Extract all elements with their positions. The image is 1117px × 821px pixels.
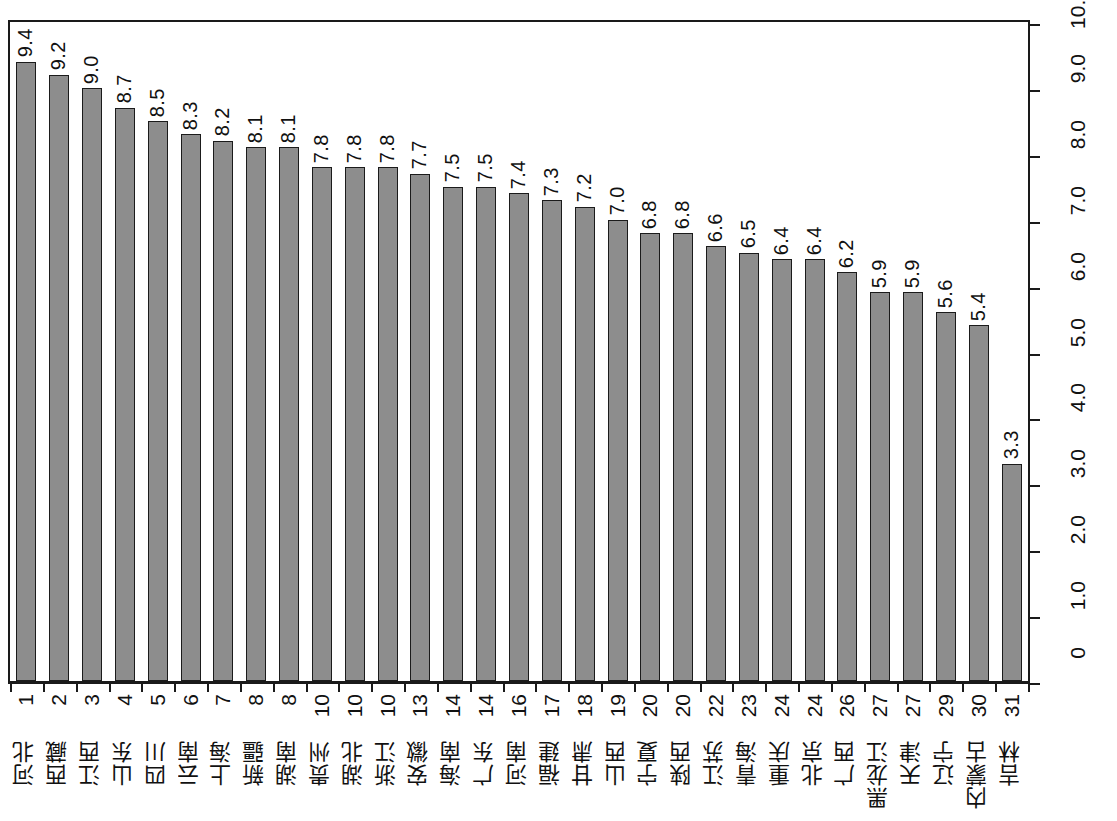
bar-value-label: 8.5 <box>147 88 167 117</box>
value-axis-tick-labels: 01.02.03.04.05.06.07.08.09.010.0 <box>1042 0 1117 821</box>
value-tick-label: 5.0 <box>1042 318 1114 347</box>
category-label-group: 8新疆 <box>244 694 268 821</box>
category-name-label: 黑龙江 <box>868 740 892 809</box>
category-tick <box>207 683 209 692</box>
category-rank-label: 10 <box>343 694 367 717</box>
category-rank-label: 22 <box>704 694 728 717</box>
value-tick <box>1030 683 1040 685</box>
category-tick <box>109 683 111 692</box>
category-name-label: 上海 <box>211 740 235 786</box>
category-rank-label: 17 <box>540 694 564 717</box>
bar-value-label: 8.1 <box>245 114 265 143</box>
category-tick <box>962 683 964 692</box>
value-tick-label: 4.0 <box>1042 383 1114 412</box>
category-label-group: 14海南 <box>441 694 465 821</box>
category-axis-ticks <box>8 683 1030 692</box>
bar-value-label: 7.8 <box>344 134 364 163</box>
bar-rect <box>608 220 628 681</box>
bar-value-label: 7.2 <box>574 173 594 202</box>
bar-value-label: 6.6 <box>705 213 725 242</box>
category-tick <box>10 683 12 692</box>
category-label-group: 20宁夏 <box>638 694 662 821</box>
category-name-label: 广东 <box>474 740 498 786</box>
category-label-group: 20陕西 <box>671 694 695 821</box>
category-rank-label: 30 <box>967 694 991 717</box>
bar: 5.4 <box>969 325 989 681</box>
bar: 6.5 <box>739 253 759 681</box>
bar-rect <box>706 246 726 681</box>
category-name-label: 河北 <box>14 740 38 786</box>
bar-rect <box>1002 464 1022 681</box>
category-name-label: 吉林 <box>1000 740 1024 786</box>
category-label-group: 8湖南 <box>277 694 301 821</box>
bar-value-label: 9.0 <box>81 55 101 84</box>
category-rank-label: 3 <box>80 694 104 706</box>
category-rank-label: 20 <box>671 694 695 717</box>
category-name-label: 四川 <box>146 740 170 786</box>
category-rank-label: 26 <box>835 694 859 717</box>
category-rank-label: 24 <box>803 694 827 717</box>
category-label-group: 10湖北 <box>343 694 367 821</box>
value-tick <box>1030 24 1040 26</box>
category-label-group: 29辽宁 <box>934 694 958 821</box>
category-name-label: 西藏 <box>47 740 71 786</box>
bar-value-label: 7.7 <box>409 140 429 169</box>
bar: 7.5 <box>476 187 496 681</box>
bar-rect <box>772 259 792 681</box>
category-rank-label: 19 <box>606 694 630 717</box>
bar-value-label: 6.2 <box>836 239 856 268</box>
bar-rect <box>805 259 825 681</box>
category-label-group: 27天津 <box>901 694 925 821</box>
bar-rect <box>476 187 496 681</box>
value-tick <box>1030 419 1040 421</box>
category-label-group: 5四川 <box>146 694 170 821</box>
category-rank-label: 6 <box>179 694 203 706</box>
category-label-group: 23青海 <box>737 694 761 821</box>
value-axis-ticks <box>1030 20 1040 685</box>
category-label-group: 14广东 <box>474 694 498 821</box>
category-rank-label: 2 <box>47 694 71 706</box>
bar: 7.0 <box>608 220 628 681</box>
category-rank-label: 7 <box>211 694 235 706</box>
category-label-group: 10浙江 <box>376 694 400 821</box>
category-name-label: 湖北 <box>343 740 367 786</box>
value-tick-label: 2.0 <box>1042 515 1114 544</box>
bar-value-label: 5.6 <box>935 279 955 308</box>
bar-rect <box>312 167 332 681</box>
category-tick <box>240 683 242 692</box>
bar-value-label: 6.8 <box>639 200 659 229</box>
category-label-group: 27黑龙江 <box>868 694 892 821</box>
category-tick <box>141 683 143 692</box>
category-rank-label: 18 <box>573 694 597 717</box>
category-tick <box>503 683 505 692</box>
category-name-label: 天津 <box>901 740 925 786</box>
bar: 9.4 <box>16 62 36 681</box>
category-tick <box>404 683 406 692</box>
category-tick <box>798 683 800 692</box>
value-tick <box>1030 288 1040 290</box>
category-tick <box>601 683 603 692</box>
bar-rect <box>870 292 890 681</box>
bar-value-label: 3.3 <box>1001 430 1021 459</box>
category-label-group: 1河北 <box>14 694 38 821</box>
bar-rect <box>739 253 759 681</box>
category-tick <box>995 683 997 692</box>
value-tick-label: 1.0 <box>1042 581 1114 610</box>
value-tick <box>1030 354 1040 356</box>
category-label-group: 2西藏 <box>47 694 71 821</box>
bar: 5.6 <box>936 312 956 681</box>
value-tick <box>1030 551 1040 553</box>
bar: 8.1 <box>246 147 266 681</box>
bar-value-label: 7.3 <box>541 167 561 196</box>
bar: 7.7 <box>410 174 430 681</box>
value-tick-label: 3.0 <box>1042 449 1114 478</box>
category-name-label: 新疆 <box>244 740 268 786</box>
category-name-label: 甘肃 <box>573 740 597 786</box>
category-label-group: 19山西 <box>606 694 630 821</box>
value-tick <box>1030 617 1040 619</box>
chart-canvas: 9.49.29.08.78.58.38.28.18.17.87.87.87.77… <box>0 0 1117 821</box>
category-tick <box>864 683 866 692</box>
bar-value-label: 7.0 <box>607 186 627 215</box>
bar: 7.8 <box>345 167 365 681</box>
category-rank-label: 14 <box>474 694 498 717</box>
